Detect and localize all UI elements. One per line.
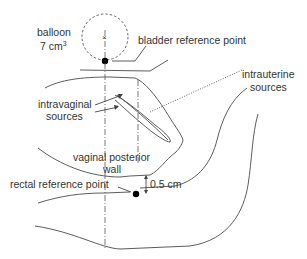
balloon-label-line2: 7 cm3 bbox=[40, 40, 67, 52]
bladder-reference-label: bladder reference point bbox=[138, 34, 246, 46]
intravaginal-applicator bbox=[115, 95, 170, 142]
distance-arrowhead-bottom bbox=[144, 190, 148, 194]
arrowhead-2 bbox=[114, 105, 119, 110]
intrauterine-source-line bbox=[150, 70, 242, 112]
intrauterine-label-line1: intrauterine bbox=[242, 68, 295, 80]
vaginal-wall-label-line1: vaginal posterior bbox=[73, 151, 151, 163]
bladder-wall-line bbox=[80, 60, 168, 71]
bladder-pointer-line bbox=[112, 46, 146, 61]
balloon-center-mark: × bbox=[102, 33, 107, 42]
balloon-unit-superscript: 3 bbox=[63, 40, 67, 47]
rectal-reference-point bbox=[133, 191, 139, 197]
intravaginal-arrow-1 bbox=[95, 95, 122, 105]
rectal-reference-label: rectal reference point bbox=[10, 178, 109, 190]
applicator-inner-line bbox=[117, 95, 168, 140]
rectal-pointer-line bbox=[118, 187, 131, 192]
uterus-right-contour-1 bbox=[140, 88, 247, 188]
intrauterine-label-line2: sources bbox=[250, 81, 287, 93]
distance-label: 0.5 cm bbox=[150, 178, 182, 190]
brachytherapy-reference-points-diagram: × balloon 7 cm3 bladder reference point … bbox=[0, 0, 307, 259]
balloon-label-line1: balloon bbox=[37, 26, 71, 38]
vaginal-wall-label-line2: wall bbox=[102, 163, 121, 175]
intravaginal-label-line1: intravaginal bbox=[38, 98, 92, 110]
intravaginal-label-line2: sources bbox=[46, 110, 83, 122]
rectal-contour bbox=[38, 192, 130, 203]
